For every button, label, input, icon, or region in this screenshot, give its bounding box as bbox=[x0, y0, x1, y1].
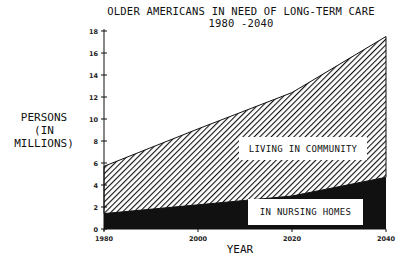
y-tick-label: 2 bbox=[93, 204, 98, 212]
y-tick-label: 8 bbox=[93, 138, 98, 146]
y-tick-label: 6 bbox=[93, 160, 98, 168]
x-tick-label: 2040 bbox=[377, 235, 396, 243]
plot-area: 0246810121416181980200020202040 bbox=[0, 0, 402, 265]
y-tick-label: 18 bbox=[89, 28, 99, 36]
x-tick-label: 2000 bbox=[189, 235, 208, 243]
x-tick-label: 2020 bbox=[283, 235, 302, 243]
annotation-in-nursing-homes: IN NURSING HOMES bbox=[248, 199, 363, 225]
y-tick-label: 14 bbox=[89, 72, 99, 80]
x-tick-label: 1980 bbox=[95, 235, 114, 243]
x-axis-label: YEAR bbox=[200, 243, 280, 256]
y-tick-label: 0 bbox=[93, 226, 98, 234]
y-tick-label: 16 bbox=[89, 50, 99, 58]
annotation-living-in-community: LIVING IN COMMUNITY bbox=[239, 137, 367, 160]
y-tick-label: 4 bbox=[93, 182, 98, 190]
y-tick-label: 10 bbox=[89, 116, 99, 124]
y-tick-label: 12 bbox=[89, 94, 98, 102]
